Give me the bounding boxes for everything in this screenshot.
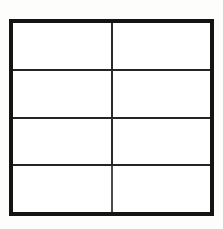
table-cell-r3c2[interactable]: [113, 119, 211, 165]
table-row: [13, 23, 210, 71]
table-cell-r1c2[interactable]: [113, 23, 211, 69]
grid-table: [9, 19, 214, 216]
table-cell-r2c1[interactable]: [13, 71, 113, 117]
table-cell-r2c2[interactable]: [113, 71, 211, 117]
table-cell-r2c2-text: [113, 71, 211, 117]
table-cell-r2c1-text: [13, 71, 111, 117]
table-cell-r3c2-text: [113, 119, 211, 165]
table-cell-r4c1[interactable]: [13, 166, 113, 212]
table-cell-r1c2-text: [113, 23, 211, 69]
table-cell-r4c1-text: [13, 166, 111, 212]
table-cell-r4c2-text: [113, 166, 211, 212]
table-row: [13, 71, 210, 119]
table-cell-r1c1[interactable]: [13, 23, 113, 69]
table-cell-r3c1-text: [13, 119, 111, 165]
table-row: [13, 166, 210, 212]
figure-canvas: [0, 0, 223, 229]
table-cell-r4c2[interactable]: [113, 166, 211, 212]
table-cell-r1c1-text: [13, 23, 111, 69]
table-row: [13, 119, 210, 167]
table-cell-r3c1[interactable]: [13, 119, 113, 165]
